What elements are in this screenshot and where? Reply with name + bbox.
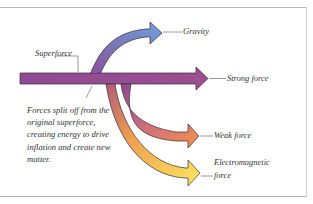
note-leader <box>86 86 92 98</box>
superforce-leader <box>56 56 78 72</box>
strong-force-label: Strong force <box>227 73 269 83</box>
gravity-arrow <box>88 22 162 80</box>
weak-force-label: Weak force <box>214 130 251 140</box>
electromagnetic-label-line1: Electromagnetic <box>214 157 270 167</box>
force-split-diagram <box>0 0 313 204</box>
gravity-label: Gravity <box>183 26 209 36</box>
diagram-frame: Gravity Strong force Weak force Electrom… <box>0 0 313 204</box>
superforce-label: Superforce <box>35 48 72 58</box>
explanatory-note: Forces split off from the original super… <box>27 104 122 165</box>
electromagnetic-label-line2: force <box>214 170 231 180</box>
